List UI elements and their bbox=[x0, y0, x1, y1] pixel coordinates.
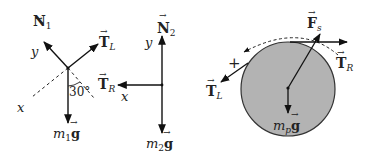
weight-2-label: m2g bbox=[146, 136, 173, 153]
x-axis-line bbox=[32, 68, 68, 97]
svg-text:→: → bbox=[99, 69, 107, 79]
tension-left-arrow bbox=[68, 44, 98, 68]
svg-text:→: → bbox=[291, 109, 299, 119]
pulley-fbd: Fs → TR → TL → + mpg → bbox=[206, 7, 353, 136]
svg-text:→: → bbox=[207, 75, 215, 85]
x-axis-label-2: x bbox=[121, 89, 129, 104]
angle-label: 30° bbox=[69, 85, 90, 99]
weight-1-label: m1g bbox=[53, 126, 80, 143]
tension-left-label-2: TL bbox=[206, 83, 222, 101]
tension-left-label-1: TL bbox=[99, 34, 115, 52]
support-force-label: Fs bbox=[307, 15, 322, 33]
normal-force-2-label: N2 bbox=[157, 20, 176, 38]
svg-text:→: → bbox=[159, 10, 167, 20]
y-axis-label-2: y bbox=[144, 35, 153, 50]
x-axis-label-1: x bbox=[17, 100, 25, 115]
svg-text:→: → bbox=[163, 127, 171, 137]
svg-text:→: → bbox=[35, 13, 43, 23]
svg-text:→: → bbox=[70, 117, 78, 127]
block-2-fbd: N2 → y TR → x m2g → bbox=[98, 10, 176, 153]
free-body-diagram-figure: N1 → TL → y x 30° m1g → N2 → y TR → x m2… bbox=[0, 0, 370, 157]
tension-right-label-2: TR bbox=[336, 55, 353, 73]
svg-text:→: → bbox=[337, 47, 345, 57]
normal-force-1-arrow bbox=[44, 42, 68, 68]
positive-rotation-sign: + bbox=[228, 54, 241, 72]
svg-text:→: → bbox=[308, 7, 316, 17]
diagram-canvas: N1 → TL → y x 30° m1g → N2 → y TR → x m2… bbox=[0, 0, 370, 157]
y-axis-label-1: y bbox=[30, 44, 39, 59]
svg-text:→: → bbox=[100, 26, 108, 36]
